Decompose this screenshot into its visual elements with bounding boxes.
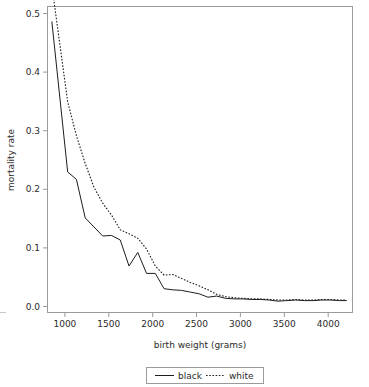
y-tick-label: 0.1 (26, 243, 40, 253)
y-tick-label: 0.2 (26, 184, 40, 194)
y-tick-label: 0.5 (26, 9, 40, 19)
y-tick-label: 0.0 (26, 302, 41, 312)
x-tick-label: 2500 (185, 319, 208, 329)
x-tick-label: 2000 (141, 319, 164, 329)
x-tick-label: 3500 (273, 319, 296, 329)
legend-label-black: black (178, 371, 203, 381)
x-tick-label: 1000 (53, 319, 76, 329)
y-axis-title: mortality rate (6, 129, 16, 191)
x-tick-label: 3000 (229, 319, 252, 329)
x-tick-label: 1500 (97, 319, 120, 329)
y-tick-label: 0.3 (26, 126, 40, 136)
legend-label-white: white (229, 371, 254, 381)
x-tick-label: 4000 (317, 319, 340, 329)
chart-legend: black white (147, 368, 264, 384)
mortality-rate-by-birth-weight-chart: 0.0 0.1 0.2 0.3 0.4 0.5 1000 1500 2000 2… (0, 0, 369, 387)
y-tick-label: 0.4 (26, 67, 41, 77)
x-axis-title: birth weight (grams) (154, 340, 247, 350)
